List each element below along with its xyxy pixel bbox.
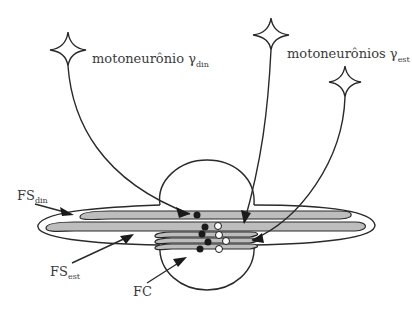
gamma-est-label: motoneurônios γest: [287, 46, 410, 64]
fs-est-pointer: [72, 234, 134, 263]
fs-din-pointer: [35, 204, 74, 216]
gamma-est-neuron-1-icon: [241, 18, 289, 224]
fs-est-label: FSest: [50, 264, 81, 281]
gamma-din-label: motoneurônio γdin: [92, 51, 209, 69]
fs-din-label: FSdin: [17, 188, 48, 205]
fc-label: FC: [133, 284, 152, 299]
fc-pointer: [147, 257, 187, 283]
muscle-spindle-diagram: motoneurônio γdin motoneurônios γest FSd…: [0, 0, 412, 309]
